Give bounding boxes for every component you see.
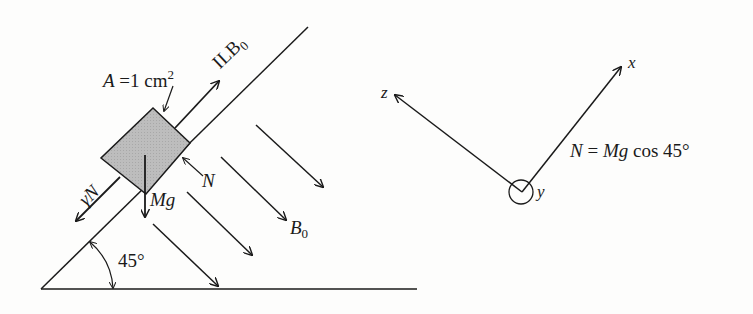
area-value: =1 cm — [119, 70, 167, 91]
x-axis-text: x — [628, 53, 636, 72]
weight-text: Mg — [150, 189, 175, 210]
b-field-arrow-1 — [256, 125, 323, 187]
angle-arc — [90, 242, 113, 288]
normal-force-text: N — [202, 170, 215, 191]
z-axis-arrow — [395, 95, 522, 192]
z-axis-text: z — [381, 83, 388, 102]
normal-force-label: N — [202, 171, 215, 190]
normal-force-arrow — [183, 158, 203, 176]
x-axis-arrow — [522, 67, 621, 192]
equation-rhs-rest: cos 45° — [628, 140, 689, 161]
x-axis-label: x — [628, 54, 636, 71]
angle-text: 45° — [118, 250, 145, 271]
equation-lhs: N — [570, 140, 583, 161]
y-axis-label: y — [537, 183, 545, 200]
diagram-canvas: A =1 cm2 ILB0 γN N Mg B0 45° x z y N = M… — [0, 0, 753, 314]
z-axis-label: z — [381, 84, 388, 101]
equation-equals: = — [583, 140, 603, 161]
equation-rhs-var: Mg — [603, 140, 628, 161]
b-field-sub: 0 — [302, 226, 309, 241]
y-axis-text: y — [537, 182, 545, 201]
b-field-arrow-3 — [187, 192, 252, 255]
weight-label: Mg — [150, 190, 175, 209]
area-exponent: 2 — [168, 67, 175, 82]
b-field-arrow-4 — [153, 224, 218, 286]
area-var: A — [103, 70, 115, 91]
b-field-text: B — [290, 217, 302, 238]
b-field-label: B0 — [290, 218, 308, 240]
normal-force-equation: N = Mg cos 45° — [570, 141, 690, 160]
b-field-arrow-2 — [221, 157, 286, 220]
area-label: A =1 cm2 — [103, 68, 174, 90]
angle-label: 45° — [118, 251, 145, 270]
